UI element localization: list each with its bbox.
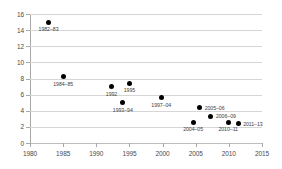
y-tick-label-slot-14: 14 [0,27,24,34]
y-tick-label-slot-4: 4 [0,107,24,114]
data-point[interactable] [197,105,202,110]
y-tick-label-slot-0: 0 [0,140,24,147]
y-tick-label-6: 6 [2,91,24,98]
data-point[interactable] [109,84,114,89]
data-point-label: 2006–09 [216,113,236,119]
data-point[interactable] [236,121,241,126]
x-tick-label-1990: 1990 [81,150,111,158]
x-tick-mark-1980 [30,143,31,147]
data-point[interactable] [226,120,231,125]
x-tick-mark-2010 [229,143,230,147]
x-tick-label-1980: 1980 [15,150,45,158]
data-point[interactable] [46,20,51,25]
x-tick-mark-2015 [262,143,263,147]
data-point[interactable] [120,100,125,105]
data-point[interactable] [61,74,66,79]
x-tick-label-2015: 2015 [247,150,277,158]
y-tick-label-0: 0 [2,140,24,147]
x-tick-mark-2005 [196,143,197,147]
data-point[interactable] [191,120,196,125]
scatter-chart: 0246810121416 19801985199019952000200520… [0,0,282,169]
x-tick-mark-1985 [63,143,64,147]
plot-area: 1982–831984–85199219951993–941997–042005… [30,14,262,143]
y-tick-label-12: 12 [2,43,24,50]
data-point-label: 1982–83 [39,26,59,32]
y-tick-label-slot-12: 12 [0,43,24,50]
y-tick-label-8: 8 [2,75,24,82]
x-tick-label-2000: 2000 [148,150,178,158]
y-tick-label-slot-8: 8 [0,75,24,82]
x-tick-mark-2000 [163,143,164,147]
x-tick-label-2010: 2010 [214,150,244,158]
y-tick-label-16: 16 [2,11,24,18]
data-point-label: 2005–06 [205,105,225,111]
y-tick-label-slot-16: 16 [0,11,24,18]
data-point[interactable] [159,95,164,100]
x-tick-mark-1990 [96,143,97,147]
data-point-label: 1997–04 [151,102,171,108]
data-point-label: 1984–85 [53,81,73,87]
data-point-label: 2011–13 [243,121,262,127]
data-point-label: 1993–94 [113,107,133,113]
data-point[interactable] [208,114,213,119]
x-tick-label-2005: 2005 [181,150,211,158]
y-tick-label-slot-2: 2 [0,123,24,130]
y-tick-label-slot-6: 6 [0,91,24,98]
x-tick-label-1995: 1995 [114,150,144,158]
data-point[interactable] [127,81,132,86]
y-tick-label-slot-10: 10 [0,59,24,66]
gridline-y-0 [30,143,262,144]
y-tick-label-4: 4 [2,107,24,114]
x-tick-label-1985: 1985 [48,150,78,158]
data-point-label: 1995 [124,87,135,93]
y-tick-label-10: 10 [2,59,24,66]
data-point-label: 1992 [106,91,117,97]
y-tick-label-14: 14 [2,27,24,34]
y-tick-label-2: 2 [2,123,24,130]
data-point-label: 2010–11 [218,126,237,132]
data-point-label: 2004–05 [183,126,203,132]
x-tick-mark-1995 [129,143,130,147]
